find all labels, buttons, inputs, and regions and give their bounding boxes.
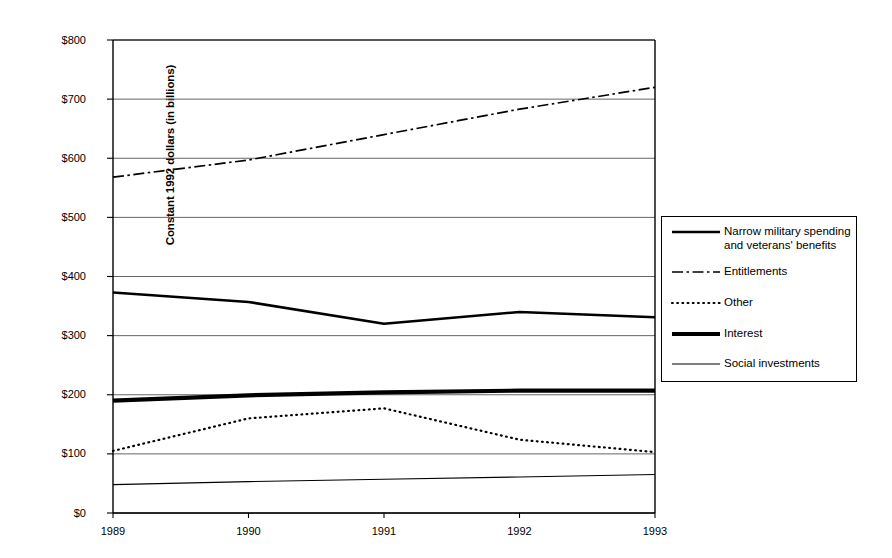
- x-tick-label-1993: 1993: [620, 526, 690, 537]
- legend-swatch-2-icon: [670, 296, 722, 310]
- legend-label-1: Entitlements: [724, 265, 858, 279]
- x-tick-label-1992: 1992: [485, 526, 555, 537]
- legend-label-0: Narrow military spending and veterans' b…: [724, 225, 858, 252]
- legend-entry-4[interactable]: Social investments: [662, 357, 858, 371]
- line-chart-figure: Constant 1992 dollars (in billions) $800…: [0, 0, 892, 558]
- legend-swatch-3-icon: [670, 327, 722, 341]
- legend-entry-0[interactable]: Narrow military spending and veterans' b…: [662, 225, 858, 252]
- legend-entry-2[interactable]: Other: [662, 296, 858, 310]
- legend-entry-3[interactable]: Interest: [662, 327, 858, 341]
- x-tick-label-1990: 1990: [214, 526, 284, 537]
- chart-legend: Narrow military spending and veterans' b…: [661, 216, 857, 382]
- legend-swatch-0-icon: [670, 225, 722, 239]
- x-tick-label-1989: 1989: [78, 526, 148, 537]
- legend-label-4: Social investments: [724, 357, 858, 371]
- x-tick-label-1991: 1991: [349, 526, 419, 537]
- legend-label-2: Other: [724, 296, 858, 310]
- legend-label-3: Interest: [724, 327, 858, 341]
- legend-swatch-4-icon: [670, 357, 722, 371]
- legend-swatch-1-icon: [670, 265, 722, 279]
- legend-entry-1[interactable]: Entitlements: [662, 265, 858, 279]
